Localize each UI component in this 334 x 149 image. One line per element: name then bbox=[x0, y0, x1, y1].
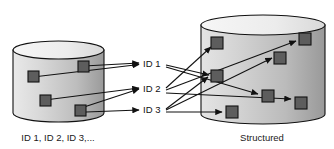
left-cylinder-top bbox=[13, 41, 104, 59]
right-item-7 bbox=[226, 106, 238, 118]
diagram-svg: ID 1 ID 2 ID 3 ID 1, ID 2, ID 3,... Stru… bbox=[0, 0, 334, 149]
left-item-c bbox=[40, 95, 51, 106]
right-item-3 bbox=[274, 52, 286, 64]
id-label-2: ID 2 bbox=[143, 83, 160, 94]
left-cylinder-body bbox=[13, 50, 104, 122]
left-item-d bbox=[75, 105, 86, 116]
id-label-1: ID 1 bbox=[143, 58, 160, 69]
right-item-2 bbox=[299, 33, 311, 45]
left-item-a bbox=[28, 71, 39, 82]
right-item-1 bbox=[211, 37, 223, 49]
left-item-b bbox=[78, 61, 89, 72]
right-cylinder-top bbox=[201, 15, 325, 35]
right-item-5 bbox=[262, 90, 274, 102]
left-cylinder-label: ID 1, ID 2, ID 3,... bbox=[21, 132, 94, 143]
id-label-3: ID 3 bbox=[143, 104, 160, 115]
right-cylinder-label: Structured bbox=[240, 132, 284, 143]
right-item-4 bbox=[211, 70, 223, 82]
left-cylinder bbox=[13, 41, 104, 122]
right-item-6 bbox=[295, 97, 307, 109]
diagram-canvas: ID 1 ID 2 ID 3 ID 1, ID 2, ID 3,... Stru… bbox=[0, 0, 334, 149]
